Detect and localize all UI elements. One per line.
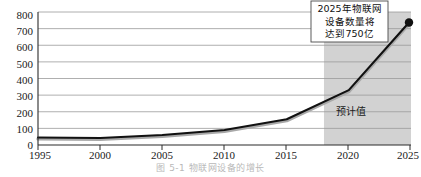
figure-container: 800 700 600 500 400 300 200 100 0 bbox=[0, 0, 421, 177]
callout-line-1: 2025年物联网 bbox=[317, 3, 381, 14]
x-tick-label: 2015 bbox=[275, 149, 298, 160]
x-tick-label: 1995 bbox=[29, 149, 52, 160]
x-tick-label: 2010 bbox=[213, 149, 236, 160]
chart-plot-area: 800 700 600 500 400 300 200 100 0 bbox=[0, 0, 421, 160]
x-tick-label: 2000 bbox=[89, 149, 112, 160]
y-axis-tick-labels: 800 700 600 500 400 300 200 100 0 bbox=[17, 9, 34, 152]
x-tick-label: 2020 bbox=[337, 149, 360, 160]
y-tick-label: 700 bbox=[17, 25, 34, 37]
y-tick-label: 500 bbox=[17, 58, 34, 70]
callout-line-3: 达到750亿 bbox=[325, 28, 373, 39]
x-tick-label: 2005 bbox=[151, 149, 174, 160]
y-tick-label: 100 bbox=[17, 123, 34, 135]
x-tick-label: 2025 bbox=[397, 149, 420, 160]
callout-line-2: 设备数量将 bbox=[325, 16, 375, 27]
endpoint-marker-2025 bbox=[405, 18, 413, 26]
y-tick-label: 400 bbox=[17, 74, 34, 86]
y-tick-label: 300 bbox=[17, 90, 34, 102]
x-axis-tick-labels: 1995 2000 2005 2010 2015 2020 2025 bbox=[29, 149, 420, 160]
callout-annotation: 2025年物联网 设备数量将 达到750亿 bbox=[311, 1, 388, 42]
y-tick-label: 200 bbox=[17, 107, 34, 119]
iot-growth-line-chart: 800 700 600 500 400 300 200 100 0 bbox=[0, 0, 421, 160]
figure-caption: 图 5-1 物联网设备的增长 bbox=[0, 161, 421, 174]
forecast-region-label: 预计值 bbox=[336, 105, 366, 117]
y-tick-label: 600 bbox=[17, 41, 34, 53]
y-tick-label: 800 bbox=[17, 9, 34, 21]
